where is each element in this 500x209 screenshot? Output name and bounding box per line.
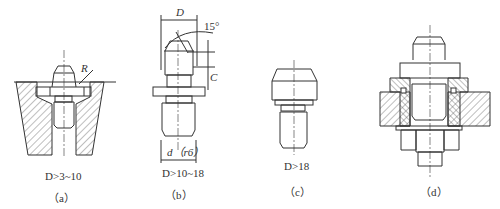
panel-d-drawing [380, 25, 490, 177]
panel-d-caption: （d） [420, 183, 448, 199]
panel-c-caption: （c） [284, 183, 311, 199]
panel-b-condition: D>10~18 [162, 167, 204, 179]
panel-a-caption: （a） [48, 189, 75, 205]
callout-c: C [210, 71, 217, 83]
callout-r: R [81, 62, 88, 74]
callout-angle: 15° [204, 20, 219, 32]
panel-b-caption: （b） [165, 186, 193, 202]
callout-d-r6: d（r6） [167, 143, 204, 159]
callout-d: D [176, 6, 184, 18]
panel-c-drawing [272, 60, 317, 155]
panel-a-drawing [14, 50, 116, 158]
panel-b-drawing [153, 15, 215, 163]
panel-c-condition: D>18 [284, 160, 309, 172]
panel-a-condition: D>3~10 [45, 170, 82, 182]
